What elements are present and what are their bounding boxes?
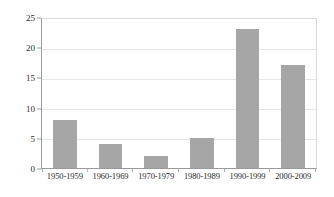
bar-slot — [88, 18, 134, 168]
bar[interactable] — [190, 138, 214, 168]
y-axis-tick-label: 10 — [9, 104, 35, 113]
bar[interactable] — [99, 144, 123, 168]
bar-slot — [133, 18, 179, 168]
x-axis-tick-label: 1990-1999 — [225, 172, 271, 181]
bar-slot — [42, 18, 88, 168]
bars-layer — [42, 18, 316, 168]
bar-slot — [270, 18, 316, 168]
y-axis-tick-label: 0 — [9, 165, 35, 174]
bar-chart: 0510152025 1950-19591960-19691970-197919… — [0, 0, 334, 197]
y-axis-tick-label: 15 — [9, 74, 35, 83]
x-axis-labels: 1950-19591960-19691970-19791980-19891990… — [42, 172, 316, 181]
x-axis-tick-label: 1970-1979 — [133, 172, 179, 181]
bar[interactable] — [144, 156, 168, 168]
x-axis-tick-label: 2000-2009 — [270, 172, 316, 181]
y-axis-tick-label: 25 — [9, 14, 35, 23]
bar[interactable] — [53, 120, 77, 168]
bar[interactable] — [236, 29, 260, 168]
x-axis-tick-label: 1950-1959 — [42, 172, 88, 181]
y-axis-tick-label: 20 — [9, 44, 35, 53]
bar[interactable] — [281, 65, 305, 168]
x-axis-tick-label: 1980-1989 — [179, 172, 225, 181]
bar-slot — [225, 18, 271, 168]
y-axis-tick-label: 5 — [9, 134, 35, 143]
bar-slot — [179, 18, 225, 168]
x-axis-tick-label: 1960-1969 — [88, 172, 134, 181]
